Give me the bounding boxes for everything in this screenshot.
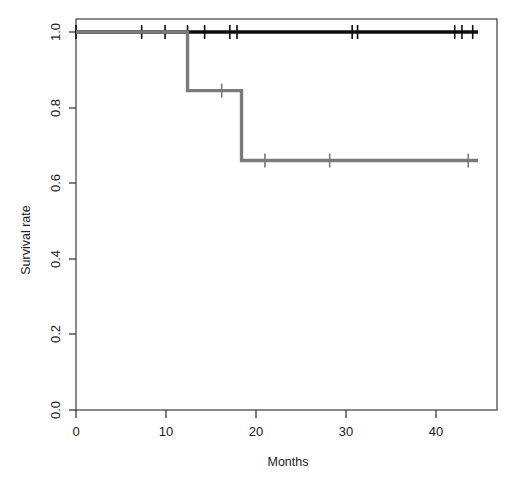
y-tick-label-6: 0.0 (48, 401, 63, 419)
y-tick-label-3: 0.6 (48, 174, 63, 192)
y-tick-label-4: 0.4 (48, 250, 63, 268)
x-tick-label-0: 0 (72, 424, 79, 439)
x-tick-label-20: 20 (249, 424, 263, 439)
y-tick-label-2: 0.8 (48, 99, 63, 117)
survival-plot-figure: 1.0 0.8 0.6 0.4 0.2 0.0 Survival rate 0 … (0, 0, 520, 487)
y-tick-label-1: 1.0 (48, 23, 63, 41)
x-axis-title: Months (268, 455, 309, 469)
y-axis-title: Survival rate (19, 205, 33, 275)
x-tick-label-10: 10 (159, 424, 173, 439)
y-tick-label-5: 0.2 (48, 325, 63, 343)
kaplan-meier-chart: 1.0 0.8 0.6 0.4 0.2 0.0 Survival rate 0 … (0, 0, 520, 487)
x-tick-label-30: 30 (339, 424, 353, 439)
figure-background (0, 0, 520, 487)
x-tick-label-40: 40 (429, 424, 443, 439)
